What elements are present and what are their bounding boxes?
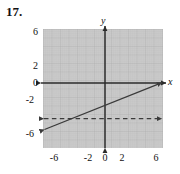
y-tick-label-6: 6 — [22, 26, 38, 37]
y-axis-label: y — [101, 15, 105, 26]
y-tick-label-minus-6: -6 — [18, 128, 34, 139]
x-tick-label-0: 0 — [96, 152, 114, 163]
solid-line — [45, 83, 163, 130]
x-tick-label-6: 6 — [147, 152, 165, 163]
y-tick-label-0: 0 — [22, 77, 38, 88]
x-axis-label: x — [168, 76, 172, 87]
x-tick-label-minus-6: -6 — [45, 152, 63, 163]
x-tick-label-minus-2: -2 — [79, 152, 97, 163]
y-tick-label-minus-2: -2 — [18, 94, 34, 105]
y-tick-label-2: 2 — [22, 60, 38, 71]
x-tick-label-2: 2 — [113, 152, 131, 163]
